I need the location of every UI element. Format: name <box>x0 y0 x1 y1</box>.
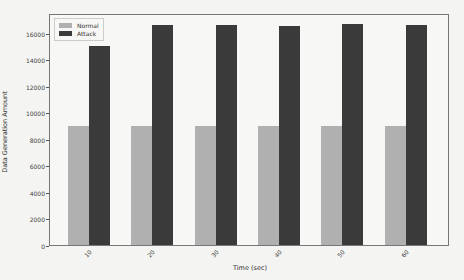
y-axis-label: Data Generation Amount <box>1 91 9 172</box>
legend: NormalAttack <box>54 18 104 41</box>
y-tick-label: 14000 <box>26 57 45 64</box>
bar-attack-40 <box>279 26 300 245</box>
legend-swatch <box>59 31 72 36</box>
bar-attack-60 <box>406 25 427 245</box>
bar-attack-20 <box>152 25 173 245</box>
y-tick-mark <box>46 193 49 194</box>
y-tick-mark <box>46 219 49 220</box>
x-tick-label: 30 <box>209 248 219 258</box>
y-tick-mark <box>46 140 49 141</box>
x-tick-label: 40 <box>273 248 283 258</box>
y-tick-label: 4000 <box>30 189 45 196</box>
y-tick-mark <box>46 113 49 114</box>
y-tick-mark <box>46 34 49 35</box>
legend-item-normal: Normal <box>59 22 99 29</box>
y-tick-label: 8000 <box>30 136 45 143</box>
y-tick-mark <box>46 60 49 61</box>
y-tick-mark <box>46 246 49 247</box>
x-tick-label: 50 <box>336 248 346 258</box>
x-tick-label: 60 <box>399 248 409 258</box>
bar-normal-30 <box>195 126 216 245</box>
x-tick-label: 10 <box>83 248 93 258</box>
y-tick-label: 2000 <box>30 216 45 223</box>
y-tick-mark <box>46 166 49 167</box>
bar-normal-60 <box>385 126 406 245</box>
plot-area <box>49 14 449 246</box>
bar-attack-50 <box>342 24 363 245</box>
y-tick-label: 6000 <box>30 163 45 170</box>
x-axis-label: Time (sec) <box>233 264 267 272</box>
bar-normal-50 <box>321 126 342 245</box>
bar-attack-10 <box>89 46 110 245</box>
y-tick-label: 16000 <box>26 30 45 37</box>
bar-normal-40 <box>258 126 279 245</box>
y-tick-label: 0 <box>41 243 45 250</box>
y-tick-label: 10000 <box>26 110 45 117</box>
y-tick-mark <box>46 87 49 88</box>
bar-attack-30 <box>216 25 237 245</box>
y-tick-label: 12000 <box>26 83 45 90</box>
legend-label: Normal <box>77 22 99 29</box>
bar-normal-10 <box>68 126 89 245</box>
legend-item-attack: Attack <box>59 30 99 37</box>
bar-normal-20 <box>131 126 152 245</box>
x-tick-label: 20 <box>146 248 156 258</box>
legend-swatch <box>59 23 72 28</box>
legend-label: Attack <box>77 30 96 37</box>
